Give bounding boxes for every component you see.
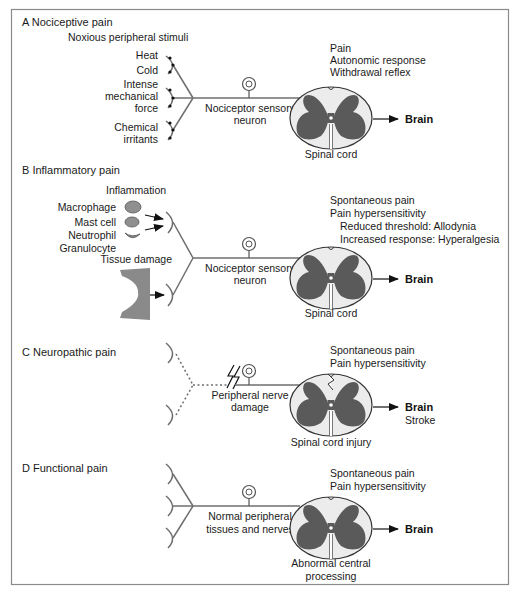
cord-label-2: processing bbox=[306, 570, 357, 582]
outcome-2: Pain hypersensitivity bbox=[330, 480, 426, 492]
arrow-icon bbox=[145, 226, 163, 230]
outcome-2: Autonomic response bbox=[330, 54, 426, 66]
stimulus-mechanical-3: force bbox=[135, 102, 159, 114]
spinal-cord-icon bbox=[290, 87, 372, 149]
neuron-label-1: Peripheral nerve bbox=[211, 389, 288, 401]
mast-cell-icon bbox=[125, 217, 139, 227]
outcome-1: Spontaneous pain bbox=[330, 344, 415, 356]
brain-label: Brain bbox=[405, 273, 433, 285]
figure-frame bbox=[12, 10, 509, 585]
damaged-tissue-icon bbox=[120, 268, 150, 320]
outcome-3: Reduced threshold: Allodynia bbox=[340, 220, 476, 232]
panel-neuropathic-pain: C Neuropathic pain Peripheral nerve dama… bbox=[22, 343, 436, 448]
stimulus-mechanical-1: Intense bbox=[124, 78, 159, 90]
panel-subtitle: Noxious peripheral stimuli bbox=[68, 31, 188, 43]
brain-label: Brain bbox=[405, 523, 433, 535]
cell-mast-cell: Mast cell bbox=[75, 216, 116, 228]
cord-label: Spinal cord bbox=[305, 148, 358, 160]
stimulus-heat: Heat bbox=[136, 49, 158, 61]
neuron-soma-icon bbox=[243, 238, 256, 259]
outcome-1: Spontaneous pain bbox=[330, 194, 415, 206]
spinal-cord-icon bbox=[290, 374, 372, 436]
outcome-2: Pain hypersensitivity bbox=[330, 357, 426, 369]
damaged-nerve-endings-icon bbox=[166, 343, 228, 425]
stimulus-chemical-2: irritants bbox=[124, 133, 158, 145]
neuron-label-1: Nociceptor sensory bbox=[205, 102, 296, 114]
cell-macrophage: Macrophage bbox=[58, 201, 117, 213]
neuron-label-1: Normal peripheral bbox=[208, 510, 291, 522]
tissue-damage-label: Tissue damage bbox=[101, 253, 173, 265]
stimulus-cold: Cold bbox=[136, 64, 158, 76]
cell-neutrophil: Neutrophil bbox=[68, 229, 116, 241]
panel-nociceptive-pain: A Nociceptive pain Noxious peripheral st… bbox=[22, 16, 433, 160]
cord-label-1: Abnormal central bbox=[291, 557, 370, 569]
neuron-soma-icon bbox=[243, 365, 256, 386]
neuron-soma-icon bbox=[243, 486, 256, 507]
neuron-label-2: tissues and nerves bbox=[206, 523, 294, 535]
panel-title: C Neuropathic pain bbox=[22, 346, 116, 358]
spinal-cord-icon bbox=[290, 247, 372, 309]
nerve-endings-icon bbox=[166, 464, 193, 548]
panel-title: A Nociceptive pain bbox=[22, 16, 113, 28]
neuron-label-2: neuron bbox=[234, 114, 267, 126]
arrow-icon bbox=[145, 215, 163, 219]
neuron-label-2: neuron bbox=[234, 274, 267, 286]
neutrophil-icon bbox=[125, 233, 140, 238]
panel-inflammatory-pain: B Inflammatory pain Inflammation Macroph… bbox=[22, 164, 500, 320]
cord-label: Spinal cord bbox=[305, 307, 358, 319]
macrophage-icon bbox=[125, 201, 141, 213]
outcome-1: Spontaneous pain bbox=[330, 467, 415, 479]
panel-functional-pain: D Functional pain Normal peripheral tiss… bbox=[22, 462, 433, 582]
nociceptor-endings-icon bbox=[166, 56, 193, 140]
neuron-label-1: Nociceptor sensory bbox=[205, 262, 296, 274]
stimulus-chemical-1: Chemical bbox=[114, 121, 158, 133]
outcome-1: Pain bbox=[330, 42, 351, 54]
neuron-label-2: damage bbox=[231, 401, 269, 413]
cord-label: Spinal cord injury bbox=[291, 436, 372, 448]
brain-extra-label: Stroke bbox=[405, 414, 436, 426]
outcome-3: Withdrawal reflex bbox=[330, 66, 411, 78]
stimulus-mechanical-2: mechanical bbox=[105, 90, 158, 102]
spinal-cord-icon bbox=[290, 497, 372, 559]
panel-title: D Functional pain bbox=[22, 462, 108, 474]
neuron-soma-icon bbox=[243, 78, 256, 99]
outcome-4: Increased response: Hyperalgesia bbox=[340, 233, 500, 245]
brain-label: Brain bbox=[405, 401, 433, 413]
panel-title: B Inflammatory pain bbox=[22, 164, 120, 176]
brain-label: Brain bbox=[405, 113, 433, 125]
pain-classification-diagram: A Nociceptive pain Noxious peripheral st… bbox=[0, 0, 516, 590]
panel-subtitle: Inflammation bbox=[106, 184, 166, 196]
outcome-2: Pain hypersensitivity bbox=[330, 207, 426, 219]
